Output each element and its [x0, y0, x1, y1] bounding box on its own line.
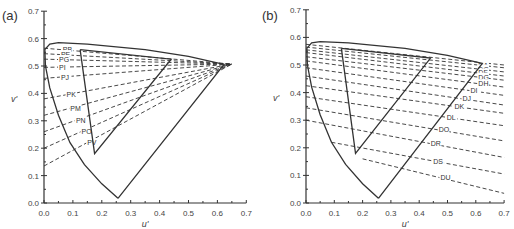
- x-tick-label: 0.2: [96, 209, 108, 218]
- y-tick-label: 0.4: [28, 89, 40, 98]
- confusion-line: [306, 120, 504, 157]
- line-label: PM: [70, 105, 81, 112]
- line-label: DK: [455, 103, 465, 110]
- line-label: PG: [59, 56, 69, 63]
- x-tick-label: 0.1: [329, 209, 341, 218]
- y-axis-label: v': [11, 94, 18, 104]
- x-tick-label: 0.4: [154, 209, 166, 218]
- y-tick-label: 0.2: [28, 144, 40, 153]
- chart-figure: (a)0.00.10.20.30.40.50.60.70.00.10.20.30…: [0, 0, 514, 229]
- y-tick-label: 0.2: [290, 144, 302, 153]
- x-axis-label: u': [402, 219, 409, 229]
- confusion-line: [306, 108, 504, 141]
- x-tick-label: 0.7: [499, 209, 511, 218]
- x-axis-label: u': [142, 219, 149, 229]
- y-tick-label: 0.3: [28, 117, 40, 126]
- x-tick-label: 0.5: [183, 209, 195, 218]
- y-tick-label: 0.0: [290, 199, 302, 208]
- line-label: PK: [67, 91, 77, 98]
- x-tick-label: 0.0: [38, 209, 50, 218]
- x-tick-label: 0.3: [385, 209, 397, 218]
- spectrum-locus: [45, 43, 224, 199]
- line-label: DI: [470, 87, 477, 94]
- x-tick-label: 0.0: [300, 209, 312, 218]
- panel-label: (b): [262, 8, 278, 23]
- line-label: PI: [59, 64, 66, 71]
- y-tick-label: 0.1: [28, 172, 40, 181]
- y-tick-label: 0.6: [28, 35, 40, 44]
- line-label: DR: [431, 140, 441, 147]
- y-axis-label: v': [273, 93, 280, 103]
- y-tick-label: 0.3: [290, 116, 302, 125]
- x-tick-label: 0.3: [125, 209, 137, 218]
- y-tick-label: 0.1: [290, 171, 302, 180]
- y-tick-label: 0.5: [290, 61, 302, 70]
- x-tick-label: 0.6: [470, 209, 482, 218]
- y-tick-label: 0.7: [28, 7, 40, 16]
- x-tick-label: 0.6: [212, 209, 224, 218]
- line-label: DO: [439, 126, 450, 133]
- y-tick-label: 0.7: [290, 6, 302, 15]
- confusion-line: [44, 64, 232, 67]
- line-label: PJ: [61, 74, 69, 81]
- y-tick-label: 0.0: [28, 199, 40, 208]
- x-tick-label: 0.7: [241, 209, 253, 218]
- line-label: DH: [478, 80, 488, 87]
- line-label: DJ: [462, 95, 471, 102]
- line-label: PN: [76, 117, 86, 124]
- line-label: DL: [447, 114, 456, 121]
- confusion-line: [44, 64, 232, 166]
- x-tick-label: 0.5: [442, 209, 454, 218]
- panel-label: (a): [2, 8, 18, 23]
- confusion-line: [44, 64, 232, 78]
- x-tick-label: 0.2: [357, 209, 369, 218]
- line-label: DS: [433, 158, 443, 165]
- line-label: DU: [440, 174, 450, 181]
- y-tick-label: 0.6: [290, 33, 302, 42]
- x-tick-label: 0.1: [67, 209, 79, 218]
- y-tick-label: 0.4: [290, 89, 302, 98]
- y-tick-label: 0.5: [28, 62, 40, 71]
- x-tick-label: 0.4: [414, 209, 426, 218]
